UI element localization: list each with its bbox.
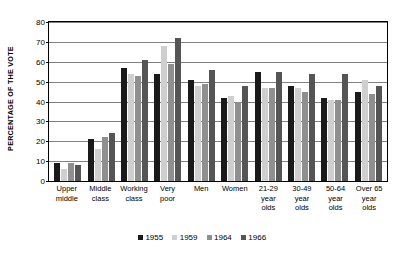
bar [121,68,127,181]
bar [54,163,60,181]
bar [242,86,248,181]
legend-label: 1955 [145,233,163,242]
bar [255,72,261,181]
legend-item: 1966 [241,233,266,242]
bar [276,72,282,181]
x-axis-label: Middleclass [84,184,118,213]
y-axis-tick-label: 10 [36,157,45,166]
bar-groups [49,22,387,181]
bar-group [151,22,184,181]
x-axis-label: Workingclass [117,184,151,213]
bar [309,74,315,181]
bar [142,60,148,181]
bar [95,149,101,181]
legend-label: 1964 [214,233,232,242]
legend-swatch [172,235,177,240]
x-axis-label: Verypoor [151,184,185,213]
bar-chart-figure: PERCENTAGE OF THE VOTE 01020304050607080… [0,0,404,256]
bar [362,80,368,181]
bar [221,98,227,181]
bar [369,94,375,181]
legend-item: 1959 [172,233,197,242]
bar-group [251,22,284,181]
y-axis-tick-label: 20 [36,137,45,146]
legend-swatch [138,235,143,240]
bar [288,86,294,181]
bar [195,86,201,181]
x-axis-label: 30-49yearolds [285,184,319,213]
bar [262,88,268,181]
bar [328,100,334,181]
bar-group [185,22,218,181]
bar [168,64,174,181]
bar [161,46,167,181]
y-axis-tick-label: 80 [36,18,45,27]
bar [88,139,94,181]
bar [135,76,141,181]
plot-area: 01020304050607080 [48,21,388,182]
bar-group [84,22,117,181]
x-axis-label: Women [218,184,252,213]
bar [335,100,341,181]
x-axis-label: 21-29yearolds [252,184,286,213]
x-axis-label: 50-64yearolds [319,184,353,213]
legend-swatch [241,235,246,240]
y-axis-tick-label: 40 [36,97,45,106]
bar-group [352,22,385,181]
bar [68,163,74,181]
bar [75,165,81,181]
y-axis-tick-mark [46,181,49,182]
bar [269,88,275,181]
bar-group [51,22,84,181]
legend-item: 1964 [207,233,232,242]
y-axis-tick-label: 0 [41,177,45,186]
x-axis-label: Men [184,184,218,213]
bar [235,102,241,182]
y-axis-tick-label: 50 [36,77,45,86]
bar [295,88,301,181]
bar [355,92,361,181]
bar [109,133,115,181]
bar [342,74,348,181]
bar-group [318,22,351,181]
y-axis-tick-label: 60 [36,57,45,66]
bar [321,98,327,181]
bar [376,86,382,181]
bar-group [118,22,151,181]
bar [175,38,181,181]
y-axis-tick-label: 30 [36,117,45,126]
bar [302,92,308,181]
bar [228,96,234,181]
bar [61,169,67,181]
bar [188,80,194,181]
y-axis-tick-label: 70 [36,37,45,46]
chart-legend: 1955195919641966 [0,233,404,242]
y-axis-title: PERCENTAGE OF THE VOTE [2,18,18,178]
x-axis-labels: UppermiddleMiddleclassWorkingclassVerypo… [48,184,388,213]
legend-label: 1966 [248,233,266,242]
bar [209,70,215,181]
bar [102,137,108,181]
legend-label: 1959 [180,233,198,242]
bar [128,74,134,181]
x-axis-label: Over 65yearolds [352,184,386,213]
y-axis-title-text: PERCENTAGE OF THE VOTE [6,46,15,151]
legend-item: 1955 [138,233,163,242]
bar-group [285,22,318,181]
legend-swatch [207,235,212,240]
bar [202,84,208,181]
bar [154,74,160,181]
x-axis-label: Uppermiddle [50,184,84,213]
bar-group [218,22,251,181]
